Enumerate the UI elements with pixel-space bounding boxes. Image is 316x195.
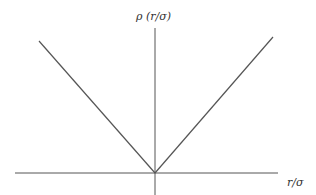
v-shaped-diagram: ρ (r/σ) r/σ xyxy=(0,0,316,195)
x-axis-label: r/σ xyxy=(287,176,304,189)
y-axis-label: ρ (r/σ) xyxy=(135,10,171,23)
left-branch-line xyxy=(39,41,155,173)
right-branch-line xyxy=(155,37,273,173)
